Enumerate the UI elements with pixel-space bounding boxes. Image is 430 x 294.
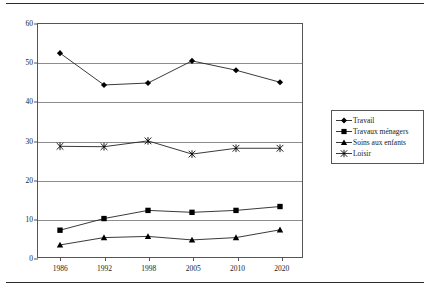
legend-item-1[interactable]: Travail: [335, 115, 419, 126]
data-point: [101, 82, 107, 88]
legend-label: Travaux ménagers: [353, 128, 408, 136]
data-point: [277, 79, 283, 85]
series-line: [60, 141, 280, 154]
legend-marker-star-icon: [335, 148, 353, 159]
y-tick-mark: [34, 259, 38, 260]
data-point: [233, 208, 238, 213]
data-point: [57, 50, 63, 56]
legend-item-2[interactable]: Travaux ménagers: [335, 126, 419, 137]
data-point: [145, 208, 150, 213]
legend-marker-square-icon: [335, 126, 353, 137]
x-tick-label: 2005: [186, 265, 201, 273]
series-line: [60, 53, 280, 85]
x-tick-mark: [193, 257, 194, 261]
x-tick-label: 1986: [53, 265, 68, 273]
x-tick-mark: [238, 257, 239, 261]
data-point: [189, 58, 195, 64]
y-tick-label: 40: [26, 99, 34, 107]
page-rule-bottom: [6, 282, 424, 283]
data-point: [101, 216, 106, 221]
x-tick-mark: [60, 257, 61, 261]
x-tick-label: 2020: [274, 265, 289, 273]
data-point: [233, 67, 239, 73]
y-tick-label: 10: [26, 216, 34, 224]
legend-label: Travail: [353, 117, 374, 125]
series-3: [57, 227, 283, 248]
x-tick-mark: [105, 257, 106, 261]
chart-page: 0102030405060 198619921998200520102020 T…: [0, 0, 430, 294]
legend-item-3[interactable]: Soins aux enfants: [335, 137, 419, 148]
data-point: [145, 80, 151, 86]
plot-area: 0102030405060 198619921998200520102020: [37, 23, 303, 258]
series-line: [60, 207, 280, 231]
x-tick-label: 1992: [97, 265, 112, 273]
y-tick-label: 50: [26, 59, 34, 67]
x-tick-label: 2010: [230, 265, 245, 273]
legend-item-4[interactable]: Loisir: [335, 148, 419, 159]
page-rule-top: [6, 3, 424, 4]
x-tick-label: 1998: [141, 265, 156, 273]
series-layer: [38, 24, 302, 257]
legend-label: Soins aux enfants: [353, 139, 406, 147]
data-point: [189, 210, 194, 215]
series-2: [57, 204, 282, 233]
series-line: [60, 230, 280, 245]
legend-marker-diamond-icon: [335, 115, 353, 126]
data-point: [277, 227, 283, 233]
y-tick-label: 20: [26, 177, 34, 185]
series-4: [57, 137, 284, 158]
x-tick-mark: [149, 257, 150, 261]
y-tick-label: 60: [26, 20, 34, 28]
y-tick-label: 30: [26, 138, 34, 146]
legend-marker-triangle-icon: [335, 137, 353, 148]
data-point: [277, 204, 282, 209]
series-1: [57, 50, 283, 88]
chart-legend: TravailTravaux ménagersSoins aux enfants…: [331, 110, 424, 164]
y-tick-label: 0: [29, 255, 33, 263]
legend-label: Loisir: [353, 150, 371, 158]
data-point: [57, 228, 62, 233]
x-tick-mark: [282, 257, 283, 261]
